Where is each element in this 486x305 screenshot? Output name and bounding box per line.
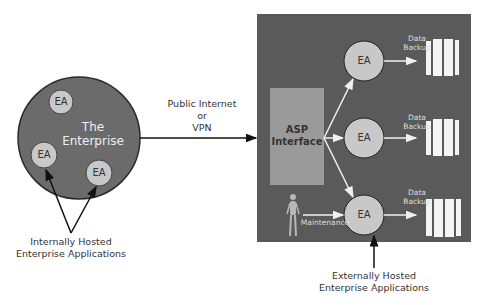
data-backup-label-1: Data Backup (392, 34, 442, 52)
data-backup-label-3: Data Backup (392, 188, 442, 206)
asp-interface-label: ASP Interface (270, 124, 324, 148)
enterprise-title: The Enterprise (48, 120, 138, 148)
maintenance-label: Maintenance (300, 218, 350, 227)
external-ea-label-2: EA (344, 132, 384, 144)
external-caption: Externally Hosted Enterprise Application… (304, 270, 444, 294)
internal-ea-label-3: EA (79, 167, 119, 179)
external-ea-label-1: EA (344, 55, 384, 67)
internal-ea-label-2: EA (24, 149, 64, 161)
asp-architecture-diagram: The Enterprise EA EA EA Internally Hoste… (0, 0, 486, 305)
external-ea-label-3: EA (344, 209, 384, 221)
connection-label: Public Internet or VPN (152, 98, 252, 134)
internal-caption: Internally Hosted Enterprise Application… (2, 236, 140, 260)
data-backup-label-2: Data Backup (392, 113, 442, 131)
internal-ea-label-1: EA (41, 96, 81, 108)
